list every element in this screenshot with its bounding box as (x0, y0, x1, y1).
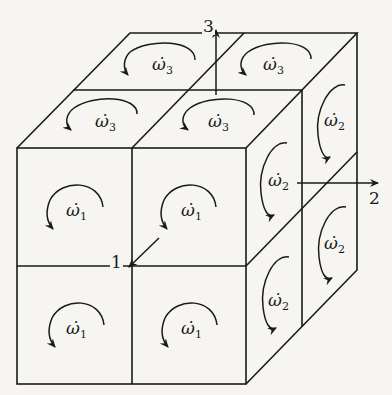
top-face (17, 33, 357, 148)
omega-2-label: ω̇2 (268, 292, 289, 312)
omega-3-label: ω̇3 (152, 56, 173, 76)
omega-1-label: ω̇1 (66, 320, 87, 340)
omega-2-label: ω̇2 (324, 112, 345, 132)
axis-label-1: 1 (110, 254, 123, 271)
omega-3-label: ω̇3 (95, 113, 116, 133)
omega-1-label: ω̇1 (66, 202, 87, 222)
axis-label-2: 2 (368, 190, 381, 207)
omega-2-label: ω̇2 (268, 172, 289, 192)
front-face (17, 148, 246, 384)
omega-3-label: ω̇3 (208, 113, 229, 133)
axis-1-arrow (129, 238, 159, 267)
cube-diagram: 3 2 1 ω̇1 ω̇1 ω̇1 ω̇1 ω̇3 ω̇3 ω̇3 ω̇3 ω̇… (0, 0, 392, 395)
omega-1-label: ω̇1 (181, 202, 202, 222)
axis-label-3: 3 (202, 18, 215, 35)
omega-1-label: ω̇1 (181, 320, 202, 340)
omega-3-label: ω̇3 (263, 56, 284, 76)
omega-2-label: ω̇2 (324, 235, 345, 255)
